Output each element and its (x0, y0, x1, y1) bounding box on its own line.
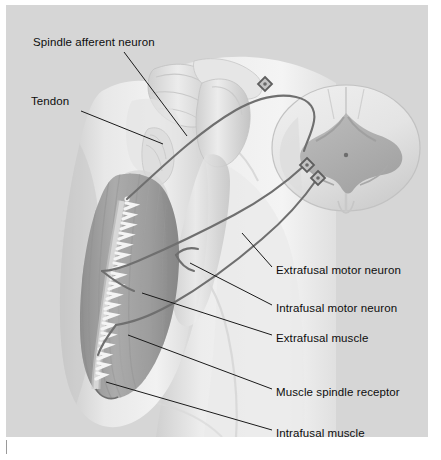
label-muscle-spindle-receptor: Muscle spindle receptor (276, 386, 400, 398)
label-tendon: Tendon (31, 95, 69, 107)
label-intrafusal-muscle: Intrafusal muscle (276, 427, 365, 437)
label-extrafusal-muscle: Extrafusal muscle (276, 332, 368, 344)
figure-container: Spindle afferent neuronTendonExtrafusal … (0, 0, 441, 460)
anatomical-illustration-plate: Spindle afferent neuronTendonExtrafusal … (6, 5, 428, 437)
illustration-svg (6, 5, 428, 437)
central-canal (344, 153, 348, 157)
label-extrafusal-motor-neuron: Extrafusal motor neuron (276, 264, 401, 276)
label-spindle-afferent-neuron: Spindle afferent neuron (33, 36, 155, 48)
label-intrafusal-motor-neuron: Intrafusal motor neuron (276, 302, 397, 314)
plate-corner-tick (6, 440, 7, 454)
